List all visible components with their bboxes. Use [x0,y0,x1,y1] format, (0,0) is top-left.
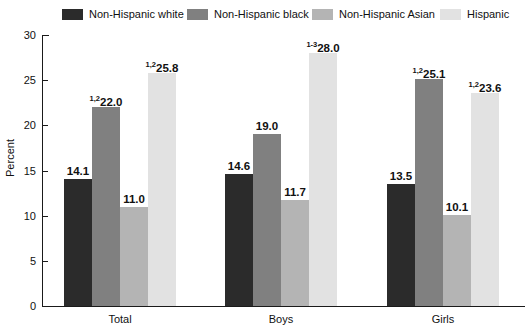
y-axis-tick-label: 25 [12,75,36,86]
y-axis-tick-label: 0 [12,301,36,312]
legend-label: Non-Hispanic white [89,8,184,20]
legend-item: Non-Hispanic Asian [312,6,435,22]
bar-value-superscript: 1-3 [306,40,317,49]
bar-value-label: 1,223.6 [469,79,502,94]
legend-swatch-icon [62,9,83,20]
legend-label: Non-Hispanic Asian [339,8,435,20]
legend-item: Hispanic [440,6,509,22]
legend-label: Non-Hispanic black [214,8,309,20]
bar [387,184,415,306]
bar-value-number: 11.7 [284,186,306,198]
legend-item: Non-Hispanic white [62,6,184,22]
bar [148,73,176,306]
bar-value-number: 13.5 [390,170,412,182]
bar [415,79,443,306]
bar-value-number: 25.1 [423,68,445,80]
legend-label: Hispanic [467,8,509,20]
bar [281,200,309,306]
bar-chart-figure: Non-Hispanic whiteNon-Hispanic blackNon-… [0,0,527,336]
bar-value-number: 19.0 [256,120,278,132]
y-axis-tick-label: 5 [12,256,36,267]
bar-value-label: 1,225.1 [413,65,446,80]
bar-value-label: 11.7 [284,186,306,198]
bar-value-label: 1,222.0 [90,93,123,108]
bar [443,215,471,306]
bar-value-number: 14.1 [67,165,89,177]
y-axis-tick-label: 10 [12,211,36,222]
bar-value-superscript: 1,2 [469,80,479,89]
bar [225,174,253,306]
x-axis-group-label: Total [80,313,160,325]
legend-swatch-icon [440,9,461,20]
bar-value-label: 13.5 [390,170,412,182]
bar-value-number: 25.8 [156,62,178,74]
bar-value-superscript: 1,2 [90,94,100,103]
y-axis-title: Percent [4,123,16,193]
y-axis-tick-label: 30 [12,30,36,41]
bar [92,107,120,306]
bar [309,53,337,306]
bar-value-label: 10.1 [446,201,468,213]
chart-legend: Non-Hispanic whiteNon-Hispanic blackNon-… [0,6,527,24]
bar-value-label: 14.1 [67,165,89,177]
bar [471,93,499,306]
bar-value-number: 10.1 [446,201,468,213]
x-axis-line [42,306,525,307]
bar-value-number: 22.0 [100,96,122,108]
bar [120,207,148,306]
bar-value-label: 11.0 [123,193,145,205]
legend-swatch-icon [187,9,208,20]
x-axis-group-label: Girls [403,313,483,325]
bar [64,179,92,306]
legend-item: Non-Hispanic black [187,6,309,22]
bar-value-number: 11.0 [123,193,145,205]
bar-value-number: 28.0 [317,42,339,54]
plot-area: 14.11,222.011.01,225.814.619.011.71-328.… [42,35,525,306]
bar-value-number: 23.6 [479,82,501,94]
bar-value-label: 19.0 [256,120,278,132]
bar-value-superscript: 1,2 [146,60,156,69]
bar-value-label: 14.6 [228,160,250,172]
legend-swatch-icon [312,9,333,20]
bar-value-label: 1,225.8 [146,59,179,74]
bar-value-number: 14.6 [228,160,250,172]
bar-value-superscript: 1,2 [413,66,423,75]
bar-value-label: 1-328.0 [306,39,339,54]
x-axis-group-label: Boys [241,313,321,325]
bar [253,134,281,306]
